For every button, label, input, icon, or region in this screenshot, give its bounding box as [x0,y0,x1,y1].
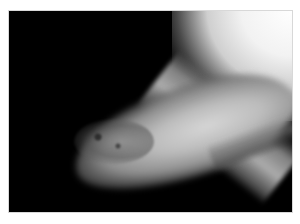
radiograph-image [8,10,293,213]
textured-tip-region [74,119,154,164]
